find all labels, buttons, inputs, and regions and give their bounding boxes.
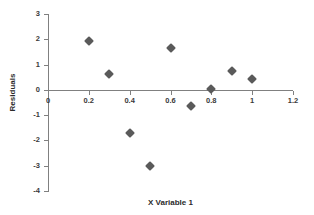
y-axis-tick [44, 140, 48, 141]
y-axis-tick-label: -1 [24, 111, 40, 119]
data-point-marker [206, 84, 216, 94]
y-axis-tick [44, 39, 48, 40]
x-axis-title: X Variable 1 [48, 198, 293, 207]
x-axis-tick [252, 91, 253, 95]
data-point-marker [145, 161, 155, 171]
x-axis-tick-label: 0.8 [196, 97, 226, 105]
y-axis-tick-label: 0 [24, 86, 40, 94]
data-point-marker [84, 36, 94, 46]
data-point-marker [247, 74, 257, 84]
data-point-marker [186, 101, 196, 111]
x-axis-tick-label: 0.4 [115, 97, 145, 105]
y-axis-tick-label: 2 [24, 35, 40, 43]
y-axis-tick-label: 3 [24, 10, 40, 18]
x-axis-tick [130, 91, 131, 95]
y-axis-tick-label: -4 [24, 187, 40, 195]
x-axis-tick [89, 91, 90, 95]
x-axis-tick-label: 0.2 [74, 97, 104, 105]
data-point-marker [166, 43, 176, 53]
x-axis-tick [171, 91, 172, 95]
y-axis-tick-label: -3 [24, 162, 40, 170]
x-axis-tick [48, 91, 49, 95]
y-axis-tick [44, 14, 48, 15]
y-axis-title: Residuals [8, 63, 17, 123]
x-axis-tick-label: 0.6 [156, 97, 186, 105]
y-axis-tick [44, 65, 48, 66]
x-axis-tick [293, 91, 294, 95]
data-point-marker [104, 69, 114, 79]
data-point-marker [125, 128, 135, 138]
residual-scatter-chart: 3210-1-2-3-4 00.20.40.60.811.2 Residuals… [0, 0, 314, 215]
y-axis-tick-label: -2 [24, 136, 40, 144]
y-axis-tick-label: 1 [24, 61, 40, 69]
data-point-marker [227, 66, 237, 76]
x-axis-tick-label: 1.2 [278, 97, 308, 105]
y-axis-tick [44, 191, 48, 192]
y-axis-tick [44, 115, 48, 116]
y-axis-tick [44, 166, 48, 167]
x-axis-tick-label: 0 [33, 97, 63, 105]
x-axis-tick-label: 1 [237, 97, 267, 105]
